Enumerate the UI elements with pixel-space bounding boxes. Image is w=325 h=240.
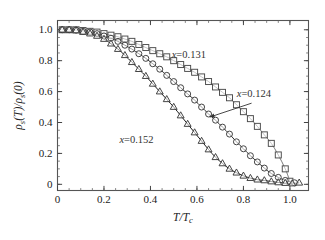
data-marker-circle (220, 124, 226, 130)
major-tick-marks (58, 21, 309, 191)
data-marker-square (199, 74, 205, 80)
data-marker-square (122, 36, 128, 42)
data-marker-square (164, 54, 170, 60)
figure-container: 00.20.40.60.81.0 00.20.40.60.81.0 x=0.13… (0, 0, 325, 240)
data-marker-circle (150, 61, 156, 67)
data-marker-circle (247, 153, 253, 159)
data-marker-circle (122, 42, 128, 48)
data-marker-square (275, 152, 281, 158)
data-marker-circle (157, 66, 163, 72)
data-marker-circle (171, 79, 177, 85)
data-marker-square (192, 69, 198, 75)
data-marker-triangle (226, 165, 233, 171)
data-marker-triangle (114, 45, 121, 51)
data-marker-circle (226, 131, 232, 137)
data-marker-square (143, 45, 149, 51)
data-marker-square (178, 62, 184, 68)
data-marker-triangle (108, 40, 115, 46)
data-marker-square (254, 123, 260, 129)
data-marker-circle (261, 165, 267, 171)
x-tick-label: 0.2 (97, 193, 111, 205)
data-marker-circle (129, 46, 135, 52)
y-axis-title: ρs(T)/ρs(0) (12, 81, 27, 131)
data-marker-circle (206, 111, 212, 117)
data-marker-circle (192, 97, 198, 103)
data-marker-square (282, 166, 288, 172)
data-marker-circle (115, 38, 121, 44)
data-marker-circle (178, 85, 184, 91)
y-tick-label: 0.2 (39, 147, 53, 159)
data-marker-square (206, 79, 212, 85)
data-marker-circle (136, 51, 142, 57)
x-tick-label: 0.4 (144, 193, 158, 205)
x-tick-labels: 00.20.40.60.81.0 (55, 193, 298, 205)
x-tick-label: 0 (55, 193, 61, 205)
data-marker-square (129, 38, 135, 44)
annotation-label: x=0.152 (118, 134, 153, 145)
x-tick-label: 1.0 (283, 193, 297, 205)
data-marker-circle (199, 104, 205, 110)
data-marker-square (226, 95, 232, 101)
data-marker-triangle (219, 160, 226, 166)
superfluid-density-chart: 00.20.40.60.81.0 00.20.40.60.81.0 x=0.13… (0, 0, 325, 240)
y-tick-label: 0.8 (39, 54, 53, 66)
data-marker-circle (213, 117, 219, 123)
data-marker-circle (268, 171, 274, 177)
axis-frame (58, 21, 309, 191)
data-marker-square (157, 51, 163, 57)
data-marker-circle (240, 146, 246, 152)
data-marker-square (268, 140, 274, 146)
annotation-label: x=0.124 (236, 88, 272, 99)
data-marker-square (261, 132, 267, 138)
data-marker-circle (185, 91, 191, 97)
y-tick-label: 0 (47, 178, 53, 190)
data-marker-square (213, 84, 219, 90)
data-marker-square (240, 109, 246, 115)
data-marker-circle (164, 72, 170, 78)
x-tick-label: 0.8 (237, 193, 251, 205)
data-marker-circle (254, 159, 260, 165)
x-axis-title: T/Tc (173, 211, 193, 226)
data-marker-square (185, 65, 191, 71)
data-marker-circle (233, 139, 239, 145)
data-marker-square (150, 48, 156, 54)
annotation-label: x=0.131 (171, 49, 206, 60)
y-tick-label: 0.4 (39, 116, 53, 128)
y-tick-label: 1.0 (39, 23, 53, 35)
data-marker-square (247, 116, 253, 122)
x-tick-label: 0.6 (190, 193, 204, 205)
data-marker-square (233, 102, 239, 108)
y-tick-label: 0.6 (39, 85, 53, 97)
data-marker-circle (143, 55, 149, 61)
data-marker-square (220, 89, 226, 95)
y-tick-labels: 00.20.40.60.81.0 (39, 23, 53, 190)
data-marker-square (136, 41, 142, 47)
minor-tick-marks (58, 21, 309, 191)
